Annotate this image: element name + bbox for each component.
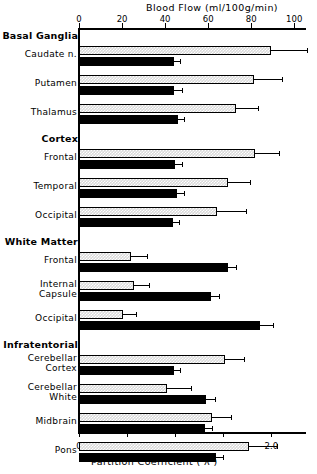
partition-coefficient-bar [79, 57, 174, 66]
blood-flow-error-line [212, 417, 230, 418]
partition-coefficient-bar [79, 189, 177, 198]
blood-flow-bar [79, 46, 271, 55]
category-label: CerebellarCortex [28, 354, 77, 373]
blood-flow-bar [79, 178, 228, 187]
chart-figure: Blood Flow (ml/100g/min) Partition Coeff… [0, 0, 317, 474]
bottom-tick-mark [223, 432, 224, 437]
category-label: Midbrain [35, 417, 77, 427]
partition-coefficient-error-line [216, 457, 224, 458]
blood-flow-error-line [217, 211, 246, 212]
partition-coefficient-error-line [211, 296, 220, 297]
blood-flow-error-cap [136, 312, 137, 317]
blood-flow-error-line [255, 153, 279, 154]
top-tick-label: 20 [117, 14, 128, 24]
category-label: Frontal [44, 153, 77, 163]
group-label: White Matter [5, 236, 78, 247]
blood-flow-error-line [254, 79, 282, 80]
blood-flow-error-cap [149, 283, 150, 288]
partition-coefficient-error-cap [184, 191, 185, 196]
blood-flow-error-cap [191, 386, 192, 391]
partition-coefficient-bar [79, 366, 174, 375]
category-label: CerebellarWhite [28, 383, 77, 402]
blood-flow-error-line [123, 314, 136, 315]
blood-flow-bar [79, 75, 254, 84]
blood-flow-bar [79, 281, 134, 290]
blood-flow-error-cap [279, 151, 280, 156]
partition-coefficient-error-line [228, 267, 236, 268]
blood-flow-bar [79, 384, 167, 393]
blood-flow-error-line [225, 359, 243, 360]
bottom-tick-mark [271, 432, 272, 437]
category-label: Thalamus [31, 108, 77, 118]
group-label: Cortex [42, 133, 79, 144]
blood-flow-error-cap [147, 254, 148, 259]
partition-coefficient-error-line [177, 193, 184, 194]
partition-coefficient-error-line [174, 90, 182, 91]
top-axis-title: Blood Flow (ml/100g/min) [146, 2, 278, 13]
blood-flow-error-cap [277, 444, 278, 449]
blood-flow-error-cap [244, 357, 245, 362]
partition-coefficient-bar [79, 321, 260, 330]
blood-flow-error-cap [231, 415, 232, 420]
category-label: InternalCapsule [39, 280, 77, 299]
blood-flow-error-line [271, 50, 308, 51]
category-label: Pons [55, 446, 77, 456]
blood-flow-bar [79, 310, 123, 319]
blood-flow-error-line [236, 108, 258, 109]
partition-coefficient-error-cap [184, 117, 185, 122]
blood-flow-bar [79, 149, 255, 158]
blood-flow-error-cap [250, 180, 251, 185]
partition-coefficient-bar [79, 86, 174, 95]
partition-coefficient-error-cap [182, 88, 183, 93]
partition-coefficient-error-cap [180, 368, 181, 373]
blood-flow-error-line [249, 446, 277, 447]
partition-coefficient-error-line [206, 399, 215, 400]
blood-flow-error-line [134, 285, 149, 286]
group-label: Basal Ganglia [2, 30, 78, 41]
partition-coefficient-error-cap [182, 162, 183, 167]
blood-flow-bar [79, 413, 212, 422]
partition-coefficient-error-cap [212, 426, 213, 431]
blood-flow-bar [79, 442, 249, 451]
blood-flow-bar [79, 252, 131, 261]
blood-flow-error-line [131, 256, 147, 257]
blood-flow-error-cap [307, 48, 308, 53]
partition-coefficient-error-line [260, 325, 273, 326]
top-tick-label: 100 [286, 14, 302, 24]
partition-coefficient-bar [79, 263, 228, 272]
top-tick-label: 0 [76, 14, 81, 24]
category-label: Occipital [35, 211, 77, 221]
blood-flow-error-cap [282, 77, 283, 82]
blood-flow-bar [79, 104, 236, 113]
category-label: Putamen [35, 79, 77, 89]
partition-coefficient-error-cap [223, 455, 224, 460]
partition-coefficient-error-cap [179, 220, 180, 225]
partition-coefficient-bar [79, 453, 216, 462]
blood-flow-bar [79, 355, 225, 364]
top-tick-label: 80 [246, 14, 257, 24]
category-label: Frontal [44, 256, 77, 266]
category-label: Caudate n. [25, 50, 77, 60]
blood-flow-error-line [228, 182, 251, 183]
partition-coefficient-bar [79, 218, 173, 227]
partition-coefficient-bar [79, 395, 206, 404]
partition-coefficient-bar [79, 292, 211, 301]
top-tick-label: 40 [160, 14, 171, 24]
top-axis-line [78, 28, 306, 30]
partition-coefficient-bar [79, 160, 175, 169]
partition-coefficient-bar [79, 424, 205, 433]
blood-flow-bar [79, 207, 217, 216]
group-label: Infratentorial [3, 339, 78, 350]
blood-flow-error-cap [246, 209, 247, 214]
blood-flow-error-cap [258, 106, 259, 111]
partition-coefficient-error-line [205, 428, 212, 429]
partition-coefficient-error-cap [236, 265, 237, 270]
category-label: Temporal [33, 182, 77, 192]
partition-coefficient-error-line [175, 164, 182, 165]
partition-coefficient-error-cap [273, 323, 274, 328]
partition-coefficient-error-cap [215, 397, 216, 402]
partition-coefficient-error-cap [219, 294, 220, 299]
partition-coefficient-error-cap [180, 59, 181, 64]
partition-coefficient-bar [79, 115, 178, 124]
category-label: Occipital [35, 314, 77, 324]
